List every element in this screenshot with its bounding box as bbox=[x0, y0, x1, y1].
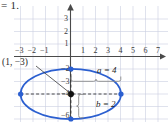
x-tick-label-2: 2 bbox=[94, 47, 98, 55]
y-tick-label--6: −6 bbox=[61, 112, 70, 120]
point-vertex-right bbox=[118, 91, 123, 96]
y-tick-label-1: 1 bbox=[65, 40, 69, 48]
point-vertex-left bbox=[18, 91, 23, 96]
center-point-label: (1, −3) bbox=[2, 57, 28, 67]
grid-lines bbox=[14, 6, 168, 122]
x-tick-label-3: 3 bbox=[106, 47, 110, 55]
x-tick-label-1: 1 bbox=[81, 47, 85, 55]
y-tick-label-3: 3 bbox=[64, 15, 68, 23]
y-tick-label-2: 2 bbox=[64, 28, 68, 36]
x-tick-label--1: −1 bbox=[40, 47, 49, 55]
axes bbox=[14, 5, 165, 119]
y-tick-label--4: −4 bbox=[61, 90, 70, 98]
x-tick-label-7: 7 bbox=[156, 47, 160, 55]
semi-minor-axis-label: b = 2 bbox=[96, 100, 116, 109]
figure-container: = 1. bbox=[0, 0, 168, 122]
x-tick-label--3: −3 bbox=[15, 47, 24, 55]
x-tick-label--2: −2 bbox=[28, 47, 37, 55]
brace-b bbox=[77, 94, 84, 117]
semi-major-axis-label: a = 4 bbox=[97, 66, 117, 75]
x-tick-label-6: 6 bbox=[144, 47, 148, 55]
y-tick-label--2: −2 bbox=[61, 65, 70, 73]
y-tick-label--3: −3 bbox=[61, 78, 70, 86]
x-tick-label-5: 5 bbox=[131, 47, 135, 55]
x-tick-label-4: 4 bbox=[119, 47, 123, 55]
